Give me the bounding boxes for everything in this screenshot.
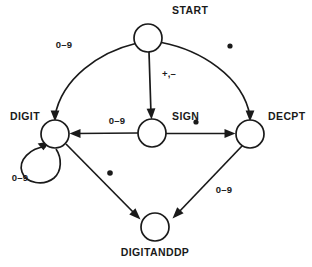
state-label-digitanddp: DIGITANDDP xyxy=(121,246,190,258)
state-circle-digit[interactable] xyxy=(41,120,69,148)
edge-label-sign-to-digit: 0–9 xyxy=(109,115,125,126)
edge-label-dot-start-to-decpt xyxy=(227,43,232,48)
state-label-sign: SIGN xyxy=(172,110,199,122)
edge-start-to-decpt-path xyxy=(162,43,251,117)
state-diagram-canvas: 0–9 +,– . 0–9 . xyxy=(0,0,312,267)
edge-label-dot-digit-to-digitanddp xyxy=(107,170,113,176)
edge-label-start-to-digit: 0–9 xyxy=(56,39,72,50)
state-node-digit[interactable]: DIGIT xyxy=(10,110,69,148)
state-label-digit: DIGIT xyxy=(10,110,40,122)
state-circle-decpt[interactable] xyxy=(236,120,264,148)
edge-label-decpt-to-digitanddp: 0–9 xyxy=(216,184,232,195)
state-circle-digitanddp[interactable] xyxy=(141,213,169,241)
state-circle-start[interactable] xyxy=(134,24,162,52)
edge-sign-to-digit-path xyxy=(75,133,138,134)
state-label-start: START xyxy=(172,4,208,16)
state-circle-sign[interactable] xyxy=(138,119,166,147)
edge-label-start-to-sign: +,– xyxy=(162,68,176,79)
edge-decpt-to-digitanddp-path xyxy=(177,146,242,214)
edge-decpt-to-digitanddp: 0–9 xyxy=(173,146,243,219)
edge-digit-to-digitanddp-path xyxy=(66,144,136,215)
edge-sign-to-digit-arrowhead xyxy=(70,129,81,138)
edge-sign-to-digit: 0–9 xyxy=(70,115,139,138)
edge-start-to-sign-path xyxy=(149,52,151,114)
state-node-digitanddp[interactable]: DIGITANDDP xyxy=(121,213,190,258)
edge-start-to-digit-path xyxy=(55,44,136,117)
edge-sign-to-decpt-arrowhead xyxy=(225,129,236,138)
edge-label-digit-self-loop: 0–9 xyxy=(12,172,28,183)
edge-digit-to-digitanddp: . xyxy=(66,144,141,220)
state-node-decpt[interactable]: DECPT xyxy=(236,110,306,148)
state-label-decpt: DECPT xyxy=(268,110,306,122)
edge-start-to-sign-arrowhead xyxy=(147,108,156,119)
edge-start-to-digit: 0–9 xyxy=(51,39,136,122)
state-node-sign[interactable]: SIGN xyxy=(138,110,199,147)
state-diagram: 0–9 +,– . 0–9 . xyxy=(0,0,312,267)
